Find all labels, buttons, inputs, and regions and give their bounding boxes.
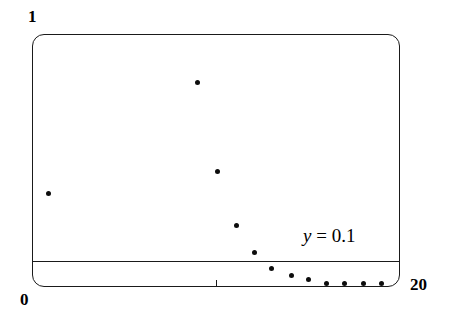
data-point [269, 266, 274, 271]
y-axis-max-label: 1 [28, 8, 37, 25]
data-point [252, 250, 257, 255]
data-point [306, 277, 311, 282]
data-point [195, 80, 200, 85]
plot-frame [32, 34, 400, 287]
data-point [289, 273, 294, 278]
x-axis-max-label: 20 [410, 276, 427, 293]
y-axis-min-label: 0 [20, 291, 29, 308]
data-point [234, 223, 239, 228]
threshold-reference-line [33, 261, 399, 262]
threshold-annotation-label: y = 0.1 [303, 226, 355, 245]
threshold-value-text: = 0.1 [311, 225, 355, 246]
scatter-plot-figure: 1 0 20 y = 0.1 [0, 0, 453, 327]
x-axis-tick [216, 280, 217, 287]
